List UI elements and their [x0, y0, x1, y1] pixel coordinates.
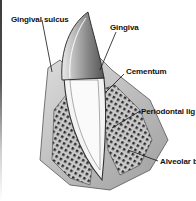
label-gingival-sulcus: Gingival sulcus — [11, 15, 69, 24]
label-cementum: Cementum — [126, 67, 167, 76]
label-periodontal-ligament: Periodontal lig — [141, 107, 195, 116]
gingiva-leader — [100, 32, 116, 70]
label-gingiva: Gingiva — [110, 23, 139, 32]
label-alveolar-bone: Alveolar b — [160, 157, 196, 166]
diagram-canvas: Gingival sulcus Gingiva Cementum Periodo… — [0, 0, 196, 201]
gingival-sulcus-leader — [42, 20, 52, 72]
tooth-illustration — [0, 0, 196, 201]
